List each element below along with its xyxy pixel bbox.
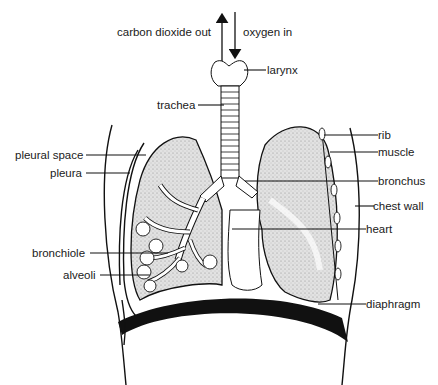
diaphragm-shape bbox=[118, 298, 348, 345]
label-co2-out: carbon dioxide out bbox=[117, 26, 212, 38]
respiratory-system-diagram: carbon dioxide out oxygen in larynx trac… bbox=[0, 0, 438, 385]
left-lung bbox=[257, 127, 337, 302]
label-chest-wall: chest wall bbox=[373, 200, 424, 212]
label-oxygen-in: oxygen in bbox=[243, 26, 292, 38]
airflow-arrows bbox=[222, 12, 235, 62]
label-larynx: larynx bbox=[267, 64, 298, 76]
heart bbox=[228, 210, 262, 290]
label-bronchus: bronchus bbox=[378, 175, 426, 187]
trachea-shape bbox=[221, 86, 239, 178]
label-alveoli: alveoli bbox=[63, 269, 96, 281]
larynx-shape bbox=[211, 61, 248, 86]
label-heart: heart bbox=[366, 223, 393, 235]
label-rib: rib bbox=[378, 129, 391, 141]
label-pleura: pleura bbox=[50, 167, 83, 179]
label-bronchiole: bronchiole bbox=[32, 247, 85, 259]
label-pleural-space: pleural space bbox=[15, 149, 83, 161]
label-muscle: muscle bbox=[378, 146, 414, 158]
label-diaphragm: diaphragm bbox=[366, 298, 420, 310]
label-trachea: trachea bbox=[157, 99, 196, 111]
